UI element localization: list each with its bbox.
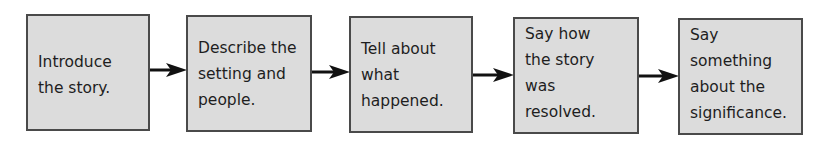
step-text: significance. [690,100,791,126]
step-box-describe-setting: Describe the setting and people. [186,15,312,132]
step-text: happened. [361,88,461,114]
step-text: people. [198,87,300,113]
arrow-right-icon [639,69,679,83]
step-text: Tell about [361,36,461,62]
step-text: resolved. [525,99,627,125]
arrow-right-icon [312,65,350,79]
step-box-significance: Say something about the significance. [678,18,803,135]
step-text: what [361,62,461,88]
arrow-right-icon [150,63,187,77]
step-text: about the [690,74,791,100]
arrow-right-icon [473,68,514,82]
step-text: Say [690,22,791,48]
step-box-tell-what-happened: Tell about what happened. [349,16,473,133]
step-box-say-how-resolved: Say how the story was resolved. [513,17,639,134]
step-box-introduce: Introduce the story. [26,14,150,131]
step-text: the story. [38,75,138,101]
step-text: Describe the [198,35,300,61]
step-text: was [525,73,627,99]
step-text: setting and [198,61,300,87]
step-text: the story [525,47,627,73]
step-text: Introduce [38,49,138,75]
step-text: Say how [525,21,627,47]
step-text: something [690,48,791,74]
